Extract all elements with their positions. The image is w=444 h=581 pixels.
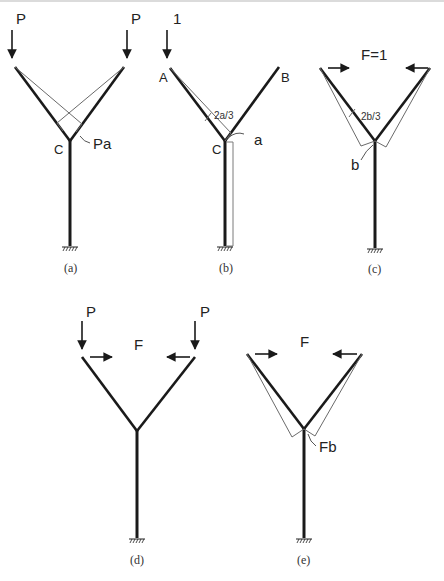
moment-diagram-right-end	[57, 123, 63, 131]
load-label-left: P	[16, 10, 26, 27]
joint-label: C	[54, 142, 63, 157]
panel-caption: (d)	[130, 553, 144, 567]
panel-caption: (b)	[219, 261, 233, 275]
arm-moment-label: 2b/3	[361, 111, 381, 122]
panel-e: F Fb (e)	[247, 333, 362, 567]
panel-caption: (e)	[297, 553, 310, 567]
tip-label-b: B	[281, 70, 290, 85]
column-moment-label: a	[254, 131, 263, 148]
tip-label-a: A	[159, 70, 168, 85]
joint-label: C	[212, 142, 221, 157]
panel-c: F=1 2b/3 b (c)	[320, 46, 430, 276]
fixed-support-hatch	[368, 249, 382, 253]
column-moment-label: b	[351, 156, 359, 173]
left-arm	[247, 354, 304, 429]
moment-leader	[80, 136, 90, 143]
structural-diagram-figure: P P C Pa (a) 1 A B C 2a/3 a	[0, 0, 444, 581]
right-arm	[137, 357, 195, 431]
left-arm	[170, 68, 225, 141]
right-arm	[225, 67, 279, 141]
force-label: F	[134, 336, 143, 353]
left-arm	[82, 357, 137, 431]
arm-moment-label: 2a/3	[214, 110, 234, 121]
fixed-support-hatch	[218, 247, 232, 251]
load-label-left: P	[86, 303, 96, 320]
load-label: 1	[173, 10, 181, 27]
moment-diagram-left	[15, 67, 82, 124]
fixed-support-hatch	[63, 247, 77, 251]
moment-label: Fb	[319, 438, 337, 455]
panel-caption: (a)	[64, 261, 77, 275]
panel-caption: (c)	[368, 262, 381, 276]
panel-b: 1 A B C 2a/3 a (b)	[159, 10, 290, 275]
load-label-right: P	[200, 303, 210, 320]
column-moment-diagram	[226, 142, 233, 246]
force-label: F=1	[361, 46, 387, 63]
right-arm	[304, 354, 362, 429]
left-arm	[320, 68, 375, 141]
force-label: F	[300, 333, 309, 350]
arm-moment-diagram	[170, 68, 231, 133]
load-label-right: P	[131, 10, 141, 27]
fixed-support-hatch	[130, 539, 144, 543]
moment-leader	[361, 145, 373, 160]
arm-moment-end	[225, 133, 231, 141]
fixed-support-hatch	[297, 539, 311, 543]
panel-d: P P F (d)	[82, 303, 210, 567]
panel-a: P P C Pa (a)	[12, 10, 141, 275]
right-arm	[375, 68, 430, 141]
moment-label: Pa	[93, 135, 112, 152]
